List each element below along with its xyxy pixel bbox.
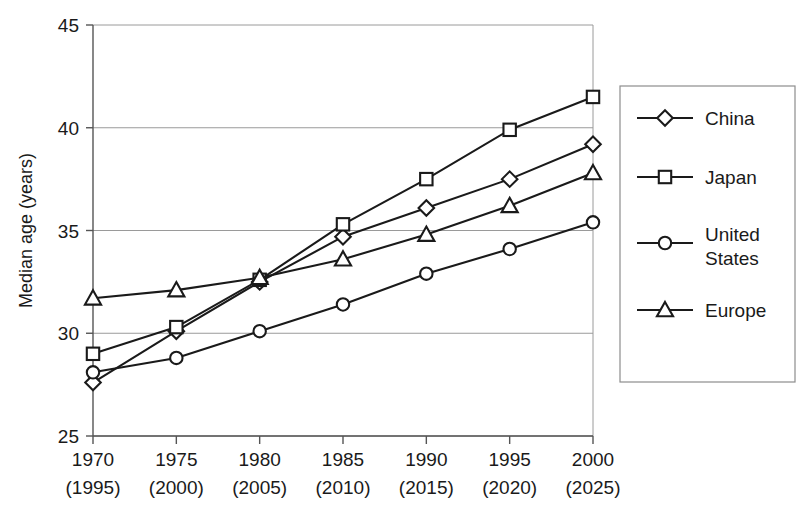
legend-label-text: China [705, 108, 755, 129]
y-tick-label-35: 35 [58, 221, 79, 242]
x-tick-label-1975: 1975 [155, 449, 197, 470]
data-point-1975 [170, 321, 182, 333]
data-point-1970 [87, 366, 99, 378]
legend-marker-square [659, 171, 671, 183]
x-tick-sublabel-1990: (2015) [399, 477, 454, 498]
data-point-2000 [585, 165, 601, 179]
y-axis-title: Median age (years) [16, 153, 36, 308]
y-tick-label-40: 40 [58, 118, 79, 139]
median-age-line-chart: 25303540451970(1995)1975(2000)1980(2005)… [0, 0, 810, 514]
data-point-1995 [502, 198, 518, 212]
y-tick-label-25: 25 [58, 426, 79, 447]
x-tick-sublabel-1980: (2005) [232, 477, 287, 498]
x-tick-label-1985: 1985 [322, 449, 364, 470]
data-point-1975 [170, 352, 182, 364]
x-tick-sublabel-1970: (1995) [66, 477, 121, 498]
legend-marker-circle [659, 237, 671, 249]
x-tick-label-1980: 1980 [239, 449, 281, 470]
x-tick-label-1990: 1990 [405, 449, 447, 470]
data-point-1990 [420, 267, 432, 279]
data-point-1985 [337, 218, 349, 230]
x-tick-sublabel-1985: (2010) [316, 477, 371, 498]
x-axis-ticks: 1970(1995)1975(2000)1980(2005)1985(2010)… [66, 436, 621, 498]
data-point-1995 [503, 243, 515, 255]
data-point-2000 [587, 216, 599, 228]
x-tick-label-1970: 1970 [72, 449, 114, 470]
x-tick-label-2000: 2000 [572, 449, 614, 470]
y-tick-label-45: 45 [58, 15, 79, 36]
data-point-1995 [503, 124, 515, 136]
legend-label-text: Japan [705, 167, 757, 188]
data-point-1985 [337, 298, 349, 310]
data-point-2000 [585, 136, 601, 152]
x-tick-sublabel-1995: (2020) [482, 477, 537, 498]
chart-canvas: 25303540451970(1995)1975(2000)1980(2005)… [0, 0, 810, 514]
legend-label-text: Europe [705, 300, 766, 321]
y-tick-label-30: 30 [58, 323, 79, 344]
data-point-1970 [87, 348, 99, 360]
x-tick-label-1995: 1995 [489, 449, 531, 470]
legend-label-text-2: States [705, 248, 759, 269]
data-point-1980 [253, 325, 265, 337]
data-point-1990 [419, 200, 435, 216]
legend-label-text: United [705, 224, 760, 245]
data-point-2000 [587, 91, 599, 103]
data-point-1995 [502, 171, 518, 187]
data-point-1990 [420, 173, 432, 185]
legend: ChinaJapanUnitedStatesEurope [620, 86, 795, 382]
series-japan [87, 91, 599, 360]
x-tick-sublabel-1975: (2000) [149, 477, 204, 498]
x-tick-sublabel-2000: (2025) [566, 477, 621, 498]
